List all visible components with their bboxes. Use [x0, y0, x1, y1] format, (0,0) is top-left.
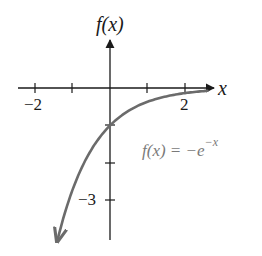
- function-plot: [0, 0, 262, 256]
- function-annotation-main: f(x) = −e: [142, 141, 205, 160]
- x-tick-label-2: 2: [180, 96, 189, 113]
- function-annotation: f(x) = −e−x: [142, 139, 218, 159]
- x-axis-label: x: [218, 78, 227, 98]
- function-annotation-exponent: −x: [205, 135, 218, 149]
- y-axis-label: f(x): [96, 14, 124, 34]
- y-tick-label-neg3: −3: [78, 191, 96, 208]
- x-tick-label-neg2: −2: [24, 96, 42, 113]
